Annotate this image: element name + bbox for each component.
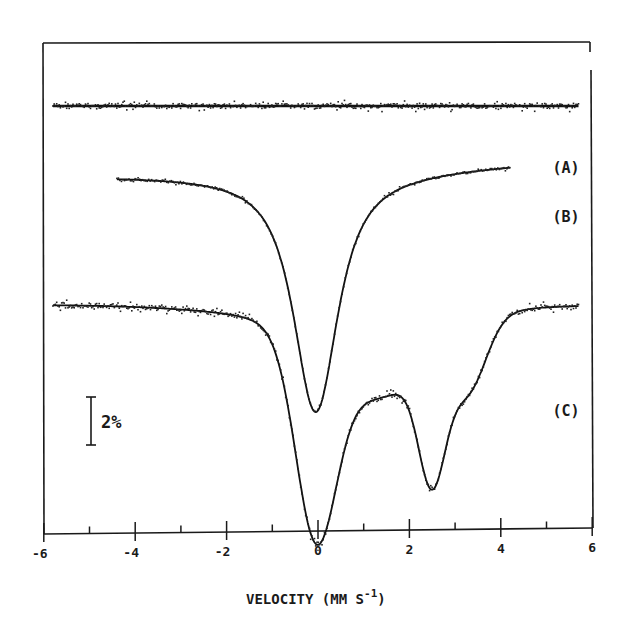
data-point — [212, 107, 214, 109]
data-point — [409, 408, 411, 410]
data-point — [458, 105, 460, 107]
data-point — [279, 258, 281, 260]
data-point — [143, 180, 145, 182]
data-point — [157, 180, 159, 182]
data-point — [371, 107, 373, 109]
data-point — [566, 107, 568, 109]
data-point — [290, 424, 292, 426]
data-point — [192, 308, 194, 310]
data-point — [355, 243, 357, 245]
data-point — [426, 107, 428, 109]
data-point — [418, 446, 420, 448]
data-point — [159, 107, 161, 109]
data-point — [189, 184, 191, 186]
data-point — [460, 403, 462, 405]
data-point — [334, 104, 336, 106]
data-point — [337, 101, 339, 103]
data-point — [574, 305, 576, 307]
data-point — [274, 348, 276, 350]
data-point — [172, 103, 174, 105]
data-point — [239, 197, 241, 199]
data-point — [456, 410, 458, 412]
data-point — [452, 174, 454, 176]
data-point — [384, 195, 386, 197]
data-point — [334, 333, 336, 335]
data-point — [441, 175, 443, 177]
data-point — [214, 186, 216, 188]
data-point — [130, 180, 132, 182]
data-point — [441, 103, 443, 105]
data-point — [390, 389, 392, 391]
data-point — [431, 487, 433, 489]
data-point — [256, 105, 258, 107]
data-point — [341, 103, 343, 105]
data-point — [330, 103, 332, 105]
data-point — [142, 179, 144, 181]
data-point — [240, 197, 242, 199]
data-point — [294, 445, 296, 447]
data-point — [359, 106, 361, 108]
data-point — [96, 108, 98, 110]
data-point — [353, 245, 355, 247]
data-point — [569, 111, 571, 113]
data-point — [130, 301, 132, 303]
data-point — [152, 180, 154, 182]
data-point — [229, 315, 231, 317]
data-point — [575, 307, 577, 309]
data-point — [171, 306, 173, 308]
data-point — [142, 106, 144, 108]
data-point — [573, 308, 575, 310]
data-point — [146, 100, 148, 102]
data-point — [423, 470, 425, 472]
data-point — [515, 312, 517, 314]
data-point — [158, 180, 160, 182]
data-point — [277, 360, 279, 362]
data-point — [419, 450, 421, 452]
data-point — [248, 203, 250, 205]
data-point — [347, 265, 349, 267]
data-point — [207, 313, 209, 315]
data-point — [180, 108, 182, 110]
data-point — [561, 308, 563, 310]
data-point — [165, 179, 167, 181]
data-point — [78, 305, 80, 307]
data-point — [292, 310, 294, 312]
data-point — [242, 103, 244, 105]
data-point — [553, 311, 555, 313]
data-point — [468, 103, 470, 105]
data-point — [428, 178, 430, 180]
data-point — [75, 105, 77, 107]
data-point — [141, 104, 143, 106]
data-point — [434, 176, 436, 178]
data-point — [241, 318, 243, 320]
data-point — [342, 104, 344, 106]
data-point — [488, 353, 490, 355]
data-point — [199, 184, 201, 186]
data-point — [329, 518, 331, 520]
data-point — [301, 493, 303, 495]
data-point — [169, 180, 171, 182]
data-point — [421, 463, 423, 465]
data-point — [571, 107, 573, 109]
data-point — [435, 178, 437, 180]
data-point — [106, 106, 108, 108]
data-point — [485, 357, 487, 359]
data-point — [161, 304, 163, 306]
data-point — [134, 101, 136, 103]
data-point — [221, 107, 223, 109]
data-point — [251, 318, 253, 320]
data-point — [566, 308, 568, 310]
data-point — [440, 469, 442, 471]
data-point — [107, 305, 109, 307]
data-point — [180, 310, 182, 312]
data-point — [116, 178, 118, 180]
data-point — [364, 405, 366, 407]
data-point — [390, 194, 392, 196]
data-point — [211, 105, 213, 107]
curve-label-b: (B) — [552, 208, 579, 226]
x-tick-label: -4 — [123, 545, 139, 560]
data-point — [185, 308, 187, 310]
data-point — [565, 304, 567, 306]
data-point — [495, 108, 497, 110]
data-point — [272, 343, 274, 345]
